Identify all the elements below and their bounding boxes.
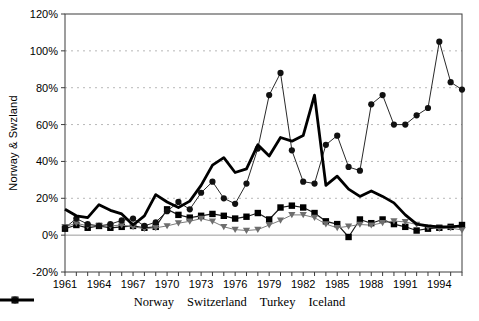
y-tick-label: 100% <box>30 45 58 57</box>
x-tick-label: 1988 <box>359 278 383 290</box>
series-marker-turkey <box>187 206 193 212</box>
y-axis-title: Norway & Swzland <box>7 95 19 191</box>
series-marker-turkey <box>448 79 454 85</box>
series-marker-turkey <box>357 168 363 174</box>
series-marker-norway <box>300 204 306 210</box>
series-marker-norway <box>243 214 249 220</box>
y-tick-label: 20% <box>36 192 58 204</box>
series-marker-turkey <box>96 223 102 229</box>
series-marker-turkey <box>209 179 215 185</box>
x-tick-label: 1979 <box>257 278 281 290</box>
series-marker-turkey <box>277 70 283 76</box>
series-marker-turkey <box>345 164 351 170</box>
series-marker-switzerland <box>458 227 465 233</box>
series-marker-turkey <box>402 121 408 127</box>
plot-border <box>65 14 462 272</box>
series-marker-turkey <box>391 121 397 127</box>
series-marker-norway <box>277 204 283 210</box>
series-marker-norway <box>221 213 227 219</box>
x-tick-label: 1967 <box>121 278 145 290</box>
x-tick-label: 1994 <box>427 278 451 290</box>
series-marker-turkey <box>232 201 238 207</box>
legend-item-norway: Norway <box>134 295 174 310</box>
chart-svg: 120%100%80%60%40%20%0%-20%19611964196719… <box>0 0 479 321</box>
x-tick-label: 1973 <box>189 278 213 290</box>
series-marker-turkey <box>85 221 91 227</box>
x-tick-label: 1991 <box>393 278 417 290</box>
series-marker-turkey <box>153 219 159 225</box>
x-tick-label: 1970 <box>155 278 179 290</box>
series-marker-turkey <box>62 225 68 231</box>
series-marker-turkey <box>414 112 420 118</box>
series-marker-turkey <box>243 180 249 186</box>
series-marker-switzerland <box>243 228 250 234</box>
series-marker-turkey <box>425 105 431 111</box>
series-marker-turkey <box>311 180 317 186</box>
y-tick-label: 0% <box>42 229 58 241</box>
x-tick-label: 1985 <box>325 278 349 290</box>
series-marker-turkey <box>130 215 136 221</box>
series-marker-norway <box>232 215 238 221</box>
series-marker-turkey <box>266 92 272 98</box>
series-marker-turkey <box>368 101 374 107</box>
series-marker-turkey <box>323 142 329 148</box>
series-marker-switzerland <box>311 215 318 221</box>
y-tick-label: 120% <box>30 8 58 20</box>
series-marker-turkey <box>380 92 386 98</box>
y-tick-label: 60% <box>36 119 58 131</box>
series-marker-turkey <box>175 199 181 205</box>
series-marker-turkey <box>164 208 170 214</box>
series-marker-norway <box>345 234 351 240</box>
legend-label-iceland: Iceland <box>308 295 345 310</box>
series-marker-norway <box>413 227 419 233</box>
x-tick-label: 1982 <box>291 278 315 290</box>
series-marker-norway <box>209 211 215 217</box>
series-marker-norway <box>266 216 272 222</box>
series-marker-norway <box>175 212 181 218</box>
series-marker-switzerland <box>266 222 273 228</box>
x-tick-label: 1961 <box>53 278 77 290</box>
series-marker-turkey <box>334 133 340 139</box>
series-marker-turkey <box>436 39 442 45</box>
legend-item-turkey: Turkey <box>260 295 296 310</box>
line-chart: 120%100%80%60%40%20%0%-20%19611964196719… <box>0 0 479 321</box>
series-marker-switzerland <box>334 225 341 231</box>
legend: Norway Switzerland Turkey Iceland <box>0 295 479 310</box>
legend-label-norway: Norway <box>134 295 174 310</box>
legend-label-turkey: Turkey <box>260 295 296 310</box>
y-tick-label: -20% <box>32 266 58 278</box>
legend-item-iceland: Iceland <box>308 295 345 310</box>
series-marker-turkey <box>107 221 113 227</box>
series-marker-switzerland <box>277 218 284 224</box>
y-tick-label: 80% <box>36 82 58 94</box>
x-tick-label: 1964 <box>87 278 111 290</box>
y-tick-label: 40% <box>36 155 58 167</box>
legend-label-switzerland: Switzerland <box>187 295 247 310</box>
series-marker-turkey <box>289 147 295 153</box>
series-marker-turkey <box>300 179 306 185</box>
series-marker-turkey <box>119 217 125 223</box>
series-marker-turkey <box>459 86 465 92</box>
series-marker-turkey <box>221 195 227 201</box>
series-line-turkey <box>65 42 462 228</box>
series-marker-norway <box>289 202 295 208</box>
iceland-line-marker-icon <box>0 295 34 305</box>
series-marker-turkey <box>141 223 147 229</box>
series-marker-switzerland <box>209 219 216 225</box>
legend-item-switzerland: Switzerland <box>187 295 247 310</box>
x-tick-label: 1976 <box>223 278 247 290</box>
series-marker-norway <box>255 210 261 216</box>
